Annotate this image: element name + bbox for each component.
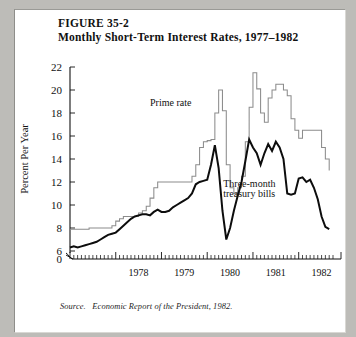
chart-annotation: treasury bills <box>223 188 275 199</box>
y-tick-label: 8 <box>57 222 63 234</box>
y-tick-label: 22 <box>51 61 62 73</box>
x-tick-label: 1978 <box>129 267 149 278</box>
source-label: Source. <box>60 302 86 311</box>
y-axis-title: Percent Per Year <box>19 124 30 194</box>
figure-container: FIGURE 35-2 Monthly Short-Term Interest … <box>14 9 345 332</box>
figure-title-block: FIGURE 35-2 Monthly Short-Term Interest … <box>58 17 338 44</box>
x-tick-label: 1981 <box>266 267 286 278</box>
figure-source: Source. Economic Report of the President… <box>60 302 232 311</box>
y-tick-label: 16 <box>51 130 63 142</box>
x-axis-title: Year <box>192 281 212 283</box>
figure-title: Monthly Short-Term Interest Rates, 1977–… <box>58 31 338 45</box>
series-prime-rate <box>70 73 329 229</box>
y-tick-label: 18 <box>51 107 63 119</box>
x-tick-label: 1979 <box>174 267 194 278</box>
page-background: FIGURE 35-2 Monthly Short-Term Interest … <box>0 0 356 337</box>
source-year: , 1982. <box>209 302 233 311</box>
x-tick-label: 1982 <box>312 267 332 278</box>
y-tick-label: 20 <box>51 84 63 96</box>
figure-number: FIGURE 35-2 <box>58 17 338 31</box>
chart-plot-area: 0681012141618202219781979198019811982Yea… <box>14 51 345 283</box>
x-tick-label: 1980 <box>220 267 240 278</box>
y-tick-label: 14 <box>51 153 63 165</box>
source-publication: Economic Report of the President <box>92 302 208 311</box>
interest-rates-line-chart: 0681012141618202219781979198019811982Yea… <box>14 51 345 283</box>
chart-annotation: Three-month <box>223 178 275 189</box>
y-tick-label: 10 <box>51 199 63 211</box>
chart-annotation: Prime rate <box>150 97 192 108</box>
y-tick-label: 12 <box>51 176 62 188</box>
y-tick-label: 6 <box>57 245 63 257</box>
